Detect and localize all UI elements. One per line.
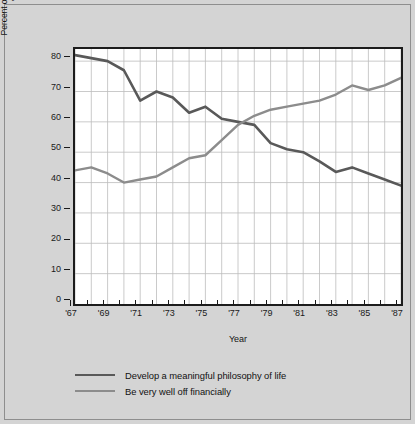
x-tick-mark-major: [266, 300, 267, 306]
x-tick-label: '69: [92, 309, 116, 318]
legend-label-financial: Be very well off financially: [125, 386, 231, 397]
chart-legend: Develop a meaningful philosophy of life …: [75, 367, 375, 399]
y-tick-label: 40: [39, 174, 61, 183]
x-tick-label: '81: [287, 309, 311, 318]
x-tick-mark-major: [331, 300, 332, 306]
y-tick-mark: [64, 178, 70, 179]
x-tick-label: '67: [59, 309, 83, 318]
y-axis-title-line1: Percent of freshmen who identified each …: [0, 0, 10, 61]
x-tick-mark-minor: [87, 300, 88, 304]
y-axis-title-line2: "essential" or "very important": [10, 0, 21, 61]
plot-svg: [75, 49, 401, 304]
y-tick-label: 80: [39, 52, 61, 61]
y-tick-label: 20: [39, 234, 61, 243]
legend-label-philosophy: Develop a meaningful philosophy of life: [125, 370, 286, 381]
x-tick-label: '77: [222, 309, 246, 318]
x-tick-mark-minor: [282, 300, 283, 304]
y-tick-label: 0: [39, 295, 61, 304]
x-tick-mark-minor: [184, 300, 185, 304]
x-tick-mark-major: [298, 300, 299, 306]
x-tick-mark-major: [364, 300, 365, 306]
grid-lines: [75, 49, 401, 304]
y-tick-mark: [64, 117, 70, 118]
x-tick-label: '85: [352, 309, 376, 318]
x-tick-mark-minor: [347, 300, 348, 304]
legend-item-philosophy: Develop a meaningful philosophy of life: [75, 367, 375, 383]
y-axis-title: Percent of freshmen who identified each …: [0, 0, 25, 61]
x-tick-mark-major: [201, 300, 202, 306]
chart-screenshot: Percent of freshmen who identified each …: [0, 0, 415, 424]
x-tick-label: '87: [385, 309, 409, 318]
y-tick-mark: [64, 87, 70, 88]
y-tick-mark: [64, 299, 70, 300]
x-tick-mark-minor: [152, 300, 153, 304]
x-tick-mark-major: [168, 300, 169, 306]
x-tick-mark-minor: [380, 300, 381, 304]
y-tick-mark: [64, 239, 70, 240]
x-tick-mark-major: [70, 300, 71, 306]
figure-frame: Percent of freshmen who identified each …: [4, 4, 411, 420]
y-tick-mark: [64, 56, 70, 57]
legend-swatch-financial: [75, 390, 115, 392]
x-tick-mark-major: [135, 300, 136, 306]
y-tick-label: 10: [39, 265, 61, 274]
legend-swatch-philosophy: [75, 374, 115, 376]
x-tick-mark-minor: [217, 300, 218, 304]
x-tick-label: '83: [320, 309, 344, 318]
x-tick-label: '75: [189, 309, 213, 318]
x-tick-mark-major: [233, 300, 234, 306]
y-tick-label: 70: [39, 83, 61, 92]
y-tick-mark: [64, 269, 70, 270]
x-tick-label: '71: [124, 309, 148, 318]
y-tick-mark: [64, 208, 70, 209]
x-axis-title: Year: [73, 334, 403, 344]
y-tick-mark: [64, 147, 70, 148]
x-tick-mark-minor: [119, 300, 120, 304]
y-tick-label: 60: [39, 113, 61, 122]
y-tick-label: 30: [39, 204, 61, 213]
x-tick-mark-major: [396, 300, 397, 306]
x-tick-mark-minor: [250, 300, 251, 304]
x-tick-mark-minor: [315, 300, 316, 304]
y-tick-label: 50: [39, 143, 61, 152]
x-tick-mark-major: [103, 300, 104, 306]
x-tick-label: '73: [157, 309, 181, 318]
legend-item-financial: Be very well off financially: [75, 383, 375, 399]
x-tick-label: '79: [255, 309, 279, 318]
plot-area: [73, 47, 403, 306]
